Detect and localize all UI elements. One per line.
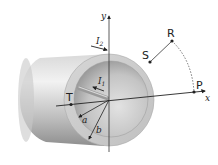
point-t-label: T [65,91,73,104]
point-p-label: P [196,79,203,92]
coaxial-tube-diagram: y x a b T I1 I2 S R P [0,0,218,165]
point-r-label: R [167,27,175,40]
radius-b-label: b [96,125,102,135]
current-i2-label: I2 [95,36,104,47]
y-axis-label: y [100,11,107,21]
radius-a-label: a [82,115,87,125]
inner-bore [74,61,148,137]
arc-r-p [172,41,194,92]
x-axis-label: x [205,93,210,103]
segment-s-r [150,41,172,62]
point-s-label: S [142,49,149,62]
